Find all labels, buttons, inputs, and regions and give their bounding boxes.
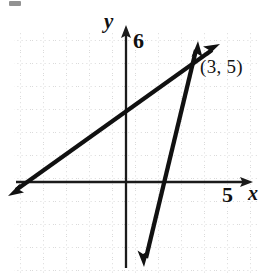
intersection-point-label: (3, 5) bbox=[200, 57, 243, 76]
y-tick-label-6: 6 bbox=[133, 30, 144, 52]
y-axis-label: y bbox=[104, 11, 113, 32]
x-axis-label: x bbox=[248, 183, 258, 203]
x-tick-label-5: 5 bbox=[222, 184, 233, 206]
coordinate-plane-figure: y x 6 5 (3, 5) bbox=[0, 0, 273, 273]
